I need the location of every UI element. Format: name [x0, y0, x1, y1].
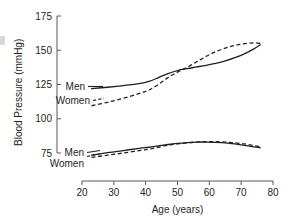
label-systolic-men: Men	[66, 81, 85, 92]
y-tick-label-175: 175	[35, 11, 52, 22]
x-tick-label-20: 20	[76, 187, 88, 198]
y-axis-title: Blood Pressure (mmHg)	[13, 39, 24, 146]
label-diastolic-women: Women	[50, 158, 84, 169]
blood-pressure-chart: 175 150 125 100 75 Blood Pressure (mmHg)…	[0, 0, 290, 222]
y-axis-ticks	[57, 50, 61, 119]
y-tick-label-100: 100	[35, 113, 52, 124]
label-diastolic-men: Men	[65, 147, 84, 158]
x-axis-tick-labels: 20 30 40 50 60 70 80	[76, 187, 279, 198]
y-axis-tick-labels: 175 150 125 100 75	[35, 11, 52, 159]
x-tick-label-60: 60	[204, 187, 216, 198]
series-diastolic-men	[92, 142, 261, 155]
x-axis-ticks	[114, 181, 241, 185]
page-corner-mark	[0, 36, 5, 45]
x-tick-label-80: 80	[267, 187, 279, 198]
series-systolic-women	[92, 43, 261, 106]
y-tick-label-150: 150	[35, 45, 52, 56]
leader-systolic-women	[93, 98, 104, 100]
x-tick-label-40: 40	[140, 187, 152, 198]
leader-diastolic-men	[87, 151, 100, 153]
label-systolic-women: Women	[56, 95, 90, 106]
x-tick-label-30: 30	[108, 187, 120, 198]
series-layer	[92, 43, 261, 158]
x-axis-title: Age (years)	[152, 204, 204, 215]
series-systolic-men	[92, 45, 261, 89]
chart-canvas: 175 150 125 100 75 Blood Pressure (mmHg)…	[0, 0, 290, 222]
x-tick-label-50: 50	[172, 187, 184, 198]
y-tick-label-75: 75	[41, 148, 53, 159]
x-tick-label-70: 70	[236, 187, 248, 198]
y-tick-label-125: 125	[35, 79, 52, 90]
